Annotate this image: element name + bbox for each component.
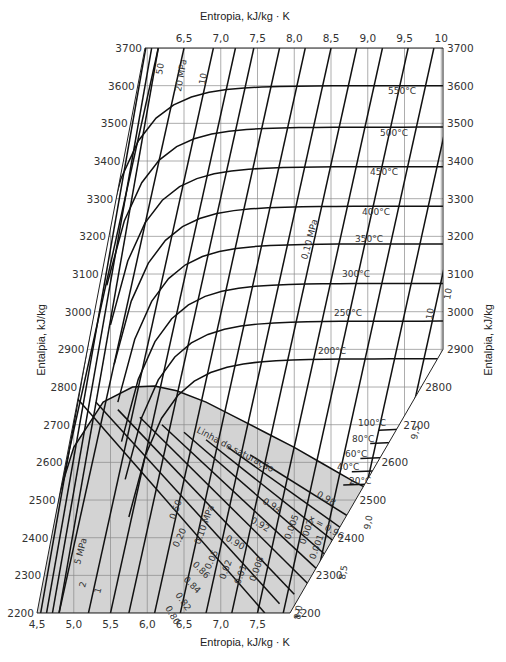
bottom-x-tick: 7,0	[212, 618, 229, 630]
left-y-tick: 3400	[94, 155, 121, 167]
right-y-tick: 3200	[447, 230, 474, 242]
isotherm-label: 20°C	[349, 476, 371, 486]
left-y-tick: 3300	[86, 193, 113, 205]
right-y-tick: 2600	[381, 456, 408, 468]
right-y-tick: 2900	[447, 343, 474, 355]
top-x-tick: 7,0	[212, 32, 229, 44]
right-y-tick: 2500	[360, 494, 387, 506]
isotherm-label: 450°C	[370, 167, 398, 177]
right-y-tick: 3000	[447, 306, 474, 318]
mollier-diagram-plot: 6,57,07,58,08,59,09,5104,55,05,56,06,57,…	[0, 0, 506, 662]
left-y-tick: 3100	[72, 268, 99, 280]
top-axis-title: Entropia, kJ/kg · K	[200, 10, 291, 22]
isobar-label: 0,10 MPa	[299, 218, 319, 260]
right-edge-entropy-label: 10	[442, 287, 454, 300]
bottom-axis-title: Entropia, kJ/kg · K	[200, 636, 291, 648]
top-x-tick: 9,5	[396, 32, 413, 44]
isobar-label: 50	[154, 62, 166, 75]
top-x-tick: 8,5	[323, 32, 340, 44]
top-x-tick: 6,5	[176, 32, 193, 44]
isobar-label: 10	[424, 307, 436, 320]
top-x-tick: 9,0	[359, 32, 376, 44]
left-y-tick: 2300	[14, 569, 41, 581]
left-y-tick: 3600	[108, 80, 135, 92]
right-y-tick: 3400	[447, 155, 474, 167]
bottom-x-tick: 4,5	[29, 618, 46, 630]
isotherm-label: 250°C	[334, 308, 362, 318]
bottom-x-tick: 6,0	[139, 618, 156, 630]
isotherm-label: 500°C	[380, 128, 408, 138]
left-y-tick: 2400	[22, 532, 49, 544]
left-axis-title: Entalpia, kJ/kg	[35, 304, 47, 376]
isobar-label: 10	[197, 72, 209, 85]
right-edge-entropy-label: 9,5	[409, 425, 421, 441]
isotherm-label: 300°C	[342, 269, 370, 279]
right-y-tick: 2800	[425, 381, 452, 393]
isotherm-label: 80°C	[352, 434, 374, 444]
isotherm-label: 60°C	[345, 449, 367, 459]
left-y-tick: 2800	[50, 381, 77, 393]
right-y-tick: 3100	[447, 268, 474, 280]
left-y-tick: 2200	[7, 607, 34, 619]
left-y-tick: 3200	[79, 230, 106, 242]
top-x-tick: 7,5	[249, 32, 266, 44]
bottom-x-tick: 5,5	[102, 618, 119, 630]
left-y-tick: 2700	[43, 419, 70, 431]
right-edge-entropy-label: 8,5	[337, 565, 349, 581]
isotherm-label: 350°C	[355, 234, 383, 244]
right-y-tick: 3700	[447, 42, 474, 54]
isotherm-label: 550°C	[388, 86, 416, 96]
left-y-tick: 2500	[29, 494, 56, 506]
top-x-tick: 10	[435, 32, 448, 44]
right-y-tick: 3600	[447, 80, 474, 92]
left-y-tick: 3700	[115, 42, 142, 54]
left-y-tick: 2900	[58, 343, 85, 355]
isotherm-label: 40°C	[337, 462, 359, 472]
isobar-label: 20 MPa	[173, 58, 189, 92]
left-y-tick: 3000	[65, 306, 92, 318]
isotherm-label: 100°C	[358, 418, 386, 428]
isotherm-label: 400°C	[362, 207, 390, 217]
isotherm-label: 200°C	[318, 346, 346, 356]
bottom-x-tick: 7,5	[249, 618, 266, 630]
bottom-x-tick: 5,0	[65, 618, 82, 630]
right-y-tick: 3500	[447, 117, 474, 129]
left-y-tick: 3500	[101, 117, 128, 129]
right-axis-title: Entalpia, kJ/kg	[482, 304, 494, 376]
left-y-tick: 2600	[36, 456, 63, 468]
top-x-tick: 8,0	[286, 32, 303, 44]
right-y-tick: 3300	[447, 193, 474, 205]
right-edge-entropy-label: 9,0	[362, 514, 374, 530]
mollier-chart: 6,57,07,58,08,59,09,5104,55,05,56,06,57,…	[0, 0, 506, 662]
